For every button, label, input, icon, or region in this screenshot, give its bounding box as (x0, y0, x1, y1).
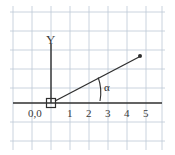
x-tick-label-5: 5 (143, 108, 149, 119)
origin-label: 0,0 (28, 108, 42, 119)
x-tick-label-2: 2 (86, 108, 92, 119)
angle-diagram-figure: Y 0,0 1 2 3 4 5 α (0, 0, 175, 155)
angle-arc (98, 78, 101, 102)
diagram-canvas (0, 0, 175, 155)
x-tick-label-4: 4 (124, 108, 130, 119)
ray-endpoint-dot (138, 54, 142, 58)
angle-ray (55, 54, 142, 101)
angle-label: α (104, 82, 110, 93)
x-tick-label-1: 1 (67, 108, 73, 119)
y-axis-label: Y (46, 33, 55, 46)
grid-lines (10, 6, 165, 150)
x-tick-label-3: 3 (105, 108, 111, 119)
